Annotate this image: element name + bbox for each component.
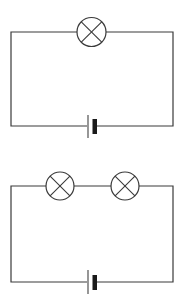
cell-icon [88,270,97,294]
lamp-icon [111,172,139,200]
cell-icon [88,115,97,138]
circuit-1: Single lamp in series with one cell [11,18,173,139]
wire-right [96,186,173,282]
circuit-diagrams: Single lamp in series with one cell Two … [0,0,185,303]
lamp-icon [77,18,106,47]
wire-top-left [11,32,87,126]
wire-left [11,186,87,282]
wire-top-right [96,32,173,126]
circuit-2: Two lamps in series with one cell [11,172,173,294]
lamp-icon [46,172,74,200]
